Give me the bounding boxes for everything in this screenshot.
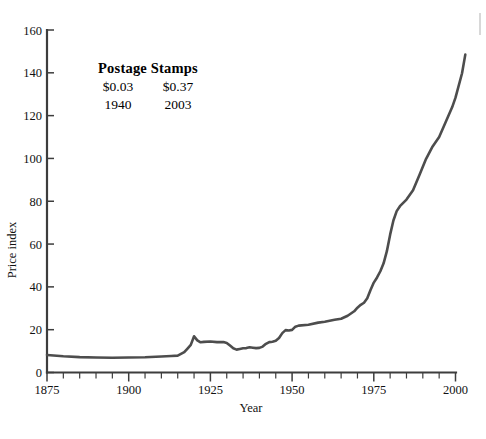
y-tick-label: 0 [36, 366, 42, 380]
y-tick-label: 160 [23, 24, 42, 38]
annotation-value-2: $0.37 [156, 79, 200, 95]
x-axis-title: Year [239, 401, 263, 415]
annotation-values-row: $0.03 $0.37 [78, 79, 218, 95]
edge-artifact [479, 13, 481, 35]
x-axis-tick-labels: 187519001925195019752000 [35, 383, 469, 397]
y-axis-tick-labels: 020406080100120140160 [23, 24, 42, 381]
y-tick-label: 120 [23, 109, 42, 123]
x-axis-ticks [47, 373, 456, 382]
postage-stamps-price-index-chart: 020406080100120140160 187519001925195019… [0, 0, 486, 439]
x-tick-label: 2000 [443, 383, 468, 397]
annotation-year-1: 1940 [96, 97, 140, 113]
y-tick-label: 80 [30, 195, 43, 209]
annotation-years-row: 1940 2003 [78, 97, 218, 113]
x-tick-label: 1875 [35, 383, 60, 397]
y-tick-label: 60 [30, 238, 43, 252]
annotation-block: Postage Stamps $0.03 $0.37 1940 2003 [78, 60, 218, 113]
x-tick-label: 1975 [361, 383, 386, 397]
annotation-value-1: $0.03 [96, 79, 140, 95]
annotation-title: Postage Stamps [78, 60, 218, 77]
x-tick-label: 1950 [280, 383, 305, 397]
y-tick-label: 20 [30, 323, 43, 337]
y-axis-title: Price index [5, 221, 19, 278]
y-tick-label: 140 [23, 66, 42, 80]
y-tick-label: 100 [23, 152, 42, 166]
x-tick-label: 1925 [198, 383, 223, 397]
annotation-year-2: 2003 [156, 97, 200, 113]
chart-canvas: 020406080100120140160 187519001925195019… [0, 0, 486, 439]
x-tick-label: 1900 [116, 383, 141, 397]
y-tick-label: 40 [30, 280, 43, 294]
